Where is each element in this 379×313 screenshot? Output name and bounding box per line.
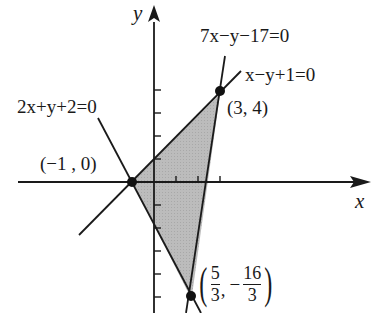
fraction-y: 16 3	[243, 264, 261, 305]
fraction-x-numerator: 5	[211, 264, 220, 283]
y-axis-arrow-icon	[148, 5, 160, 22]
left-paren: (	[199, 262, 207, 306]
fraction-x-denominator: 3	[211, 286, 220, 305]
equation-label-x-y-1: x−y+1=0	[245, 65, 315, 84]
equation-label-2x-y-2: 2x+y+2=0	[17, 97, 97, 116]
vertex-label-5over3-minus16over3: ( 5 3 , − 16 3 )	[196, 262, 276, 306]
vertex-3-4	[215, 86, 225, 96]
fraction-y-denominator: 3	[248, 286, 257, 305]
right-paren: )	[264, 262, 272, 306]
fraction-y-numerator: 16	[243, 264, 261, 283]
vertex-5over3-minus16over3	[186, 291, 196, 301]
vertex-label-3-4: (3, 4)	[227, 98, 268, 117]
vertex-label-minus1-0: (−1 , 0)	[40, 154, 97, 173]
diagram-canvas: y x 7x−y−17=0 x−y+1=0 2x+y+2=0 (3, 4) (−…	[0, 0, 379, 313]
fraction-x: 5 3	[211, 264, 220, 305]
comma: ,	[221, 280, 226, 299]
x-axis-label: x	[355, 191, 364, 212]
equation-label-7x-y-17: 7x−y−17=0	[200, 26, 289, 45]
vertex-minus1-0	[127, 177, 137, 187]
minus-sign: −	[229, 275, 240, 294]
y-axis-label: y	[133, 3, 142, 24]
